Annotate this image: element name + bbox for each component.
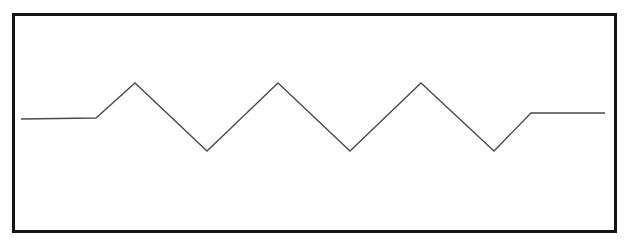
waveform-figure [0, 0, 627, 240]
figure-background [0, 0, 627, 240]
figure-container: Triangular waveform trace [0, 0, 627, 240]
